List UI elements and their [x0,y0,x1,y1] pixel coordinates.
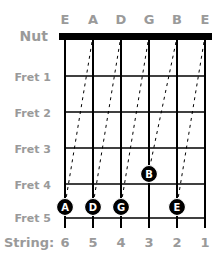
open-string-name-1: E [201,12,210,27]
open-string-name-5: A [88,12,98,27]
fret-label-5: Fret 5 [15,212,51,225]
open-string-name-6: E [61,12,70,27]
guide-a-to-string6 [66,42,92,199]
note-marker-d: D [85,199,102,216]
tuning-diagram: E A D G B E Nut Fret 1 Fret 2 Fret 3 Fre… [0,0,222,262]
note-marker-b: B [141,166,158,183]
fret-label-4: Fret 4 [15,179,52,192]
svg-text:B: B [145,169,153,180]
fret-label-3: Fret 3 [15,143,51,156]
string-number-6: 6 [60,235,69,250]
tuning-guide-lines [66,42,204,199]
string-number-4: 4 [116,235,125,250]
fret-label-1: Fret 1 [15,71,51,84]
svg-text:A: A [61,202,69,213]
fret-lines [65,76,205,218]
note-marker-g: G [113,199,130,216]
string-number-1: 1 [200,235,209,250]
open-string-name-4: D [116,12,127,27]
nut-bar [59,33,212,40]
guide-e-to-string2 [178,42,204,199]
string-number-2: 2 [172,235,181,250]
svg-text:E: E [174,202,181,213]
strings [65,40,205,228]
open-string-name-2: B [172,12,182,27]
nut-label: Nut [20,28,49,44]
string-number-5: 5 [88,235,97,250]
guide-d-to-string5 [94,42,120,199]
fret-label-2: Fret 2 [15,107,51,120]
svg-text:G: G [117,202,125,213]
open-string-name-3: G [144,12,155,27]
note-marker-e: E [169,199,186,216]
string-label: String: [4,235,54,250]
svg-text:D: D [89,202,97,213]
note-marker-a: A [57,199,74,216]
string-number-3: 3 [144,235,153,250]
